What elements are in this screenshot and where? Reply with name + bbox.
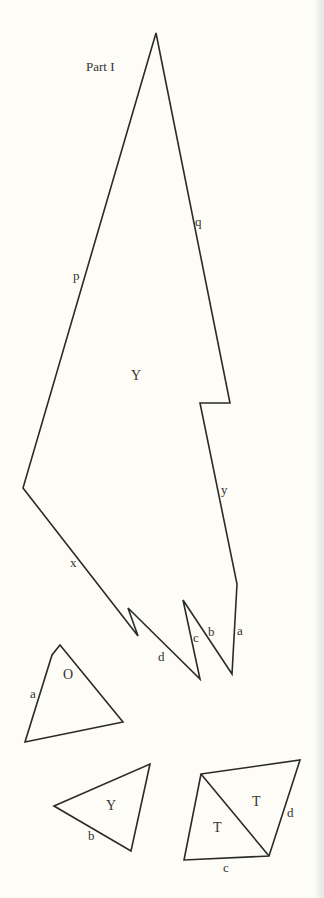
quadrilateral-TT: T T c d: [184, 760, 300, 875]
quadrilateral-diagonal: [201, 774, 269, 856]
edge-label-c-TT: c: [223, 860, 229, 875]
edge-label-a-O: a: [30, 686, 36, 701]
edge-label-d: d: [158, 649, 165, 664]
edge-label-y: y: [221, 482, 228, 497]
large-piece-outline: [23, 33, 237, 679]
edge-label-q: q: [195, 214, 202, 229]
region-label-T-lower: T: [213, 820, 222, 835]
triangle-Y: Y b: [54, 764, 150, 851]
edge-label-c: c: [193, 630, 199, 645]
region-label-Y-small: Y: [106, 798, 116, 813]
large-piece-Y: Y p q y x a b c d: [23, 33, 243, 679]
edge-label-x: x: [70, 555, 77, 570]
edge-label-p: p: [73, 268, 80, 283]
triangle-Y-outline: [54, 764, 150, 851]
edge-label-a: a: [237, 623, 243, 638]
edge-label-d-TT: d: [287, 805, 294, 820]
region-label-O: O: [63, 667, 73, 682]
triangle-O-outline: [25, 645, 123, 742]
part-title: Part I: [86, 59, 115, 74]
region-label-Y-large: Y: [131, 368, 141, 383]
edge-label-b: b: [208, 624, 215, 639]
dissection-diagram: Part I Y p q y x a b c d O a Y b T T c d: [0, 0, 324, 898]
triangle-O: O a: [25, 645, 123, 742]
edge-label-b-Y: b: [88, 828, 95, 843]
region-label-T-upper: T: [252, 794, 261, 809]
